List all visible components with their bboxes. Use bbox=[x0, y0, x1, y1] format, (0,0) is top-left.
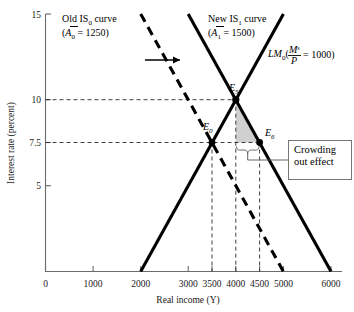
old-is0-label-line2: (A0 = 1250) bbox=[62, 27, 109, 41]
label-E5-subscript: 5 bbox=[235, 88, 239, 96]
shift-arrow-icon bbox=[145, 57, 180, 64]
lm0-fraction-numerator: Ms bbox=[288, 44, 300, 55]
x-tick-label-0: 0 bbox=[43, 279, 48, 289]
new-is1-annotation: New IS1 curve (A1 = 1500) bbox=[208, 13, 267, 41]
x-tick-label-5000: 5000 bbox=[274, 279, 293, 289]
x-tick-label-1000: 1000 bbox=[84, 279, 103, 289]
lm0-annotation: LM0( Ms P = 1000) bbox=[267, 44, 334, 66]
x-tick-label-2000: 2000 bbox=[131, 279, 150, 289]
x-tick-label-4500: 4500 bbox=[250, 279, 269, 289]
label-E6: E6 bbox=[264, 127, 275, 141]
equilibrium-point-E5 bbox=[232, 96, 239, 103]
y-tick-label-15: 15 bbox=[32, 10, 42, 20]
callout-line-2: out effect bbox=[294, 156, 347, 168]
equilibrium-point-E0 bbox=[209, 139, 216, 146]
old-is0-label-line1: Old IS0 curve bbox=[62, 13, 117, 27]
new-is1-label-line1: New IS1 curve bbox=[208, 13, 267, 27]
x-ticks bbox=[46, 266, 332, 272]
lm0-value: = 1000) bbox=[303, 49, 334, 61]
crowding-out-callout: Crowding out effect bbox=[288, 140, 352, 180]
x-axis-title: Real income (Y) bbox=[156, 295, 219, 306]
equilibrium-point-E6 bbox=[256, 139, 263, 146]
guide-lines bbox=[46, 100, 260, 272]
x-tick-label-3500: 3500 bbox=[203, 279, 222, 289]
y-tick-label-7p5: 7.5 bbox=[29, 138, 41, 148]
x-tick-label-4000: 4000 bbox=[226, 279, 245, 289]
y-axis-title: Interest rate (percent) bbox=[6, 102, 17, 184]
x-tick-label-6000: 6000 bbox=[322, 279, 341, 289]
y-tick-label-5: 5 bbox=[36, 181, 41, 191]
lm0-label: LM0( bbox=[267, 48, 289, 62]
callout-line-1: Crowding bbox=[294, 144, 347, 156]
is-lm-chart: 15 10 7.5 5 0 1000 2000 3000 3500 4000 4… bbox=[0, 0, 354, 312]
label-E6-subscript: 6 bbox=[271, 133, 275, 141]
crowding-out-brace bbox=[237, 147, 259, 155]
y-tick-label-10: 10 bbox=[32, 95, 42, 105]
x-tick-label-3000: 3000 bbox=[179, 279, 198, 289]
old-is0-annotation: Old IS0 curve (A0 = 1250) bbox=[62, 13, 117, 41]
lm0-fraction-denominator: P bbox=[290, 55, 297, 66]
new-is1-label-line2: (A1 = 1500) bbox=[208, 27, 255, 41]
label-E0-subscript: 0 bbox=[209, 127, 213, 135]
